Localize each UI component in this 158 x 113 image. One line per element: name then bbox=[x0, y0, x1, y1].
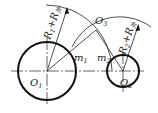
label-m2: m2 bbox=[97, 52, 111, 65]
label-r1-sum: R1+R外 bbox=[41, 4, 64, 42]
label-o1: O1 bbox=[30, 77, 42, 90]
label-m1: m1 bbox=[74, 52, 88, 65]
tangent-arc-diagram: O1 O2 O3 m1 m2 R1+R外 R2+R外 bbox=[0, 0, 158, 113]
label-o3: O3 bbox=[95, 15, 107, 28]
arc-from-o2 bbox=[72, 17, 151, 47]
line-o1-o3 bbox=[47, 30, 96, 71]
label-r2-sum: R2+R外 bbox=[116, 19, 139, 57]
label-o2: O2 bbox=[120, 77, 132, 90]
